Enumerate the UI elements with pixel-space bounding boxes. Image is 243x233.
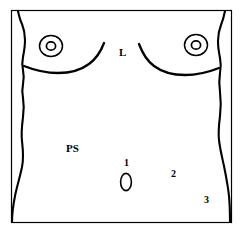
- anatomical-figure: L PS 1 2 3: [0, 0, 243, 233]
- marker-label-3: 3: [204, 195, 209, 205]
- marker-label-l: L: [119, 47, 126, 58]
- marker-label-1: 1: [124, 158, 129, 168]
- marker-label-ps: PS: [66, 143, 79, 154]
- marker-label-2: 2: [171, 169, 176, 179]
- figure-frame: [12, 11, 232, 223]
